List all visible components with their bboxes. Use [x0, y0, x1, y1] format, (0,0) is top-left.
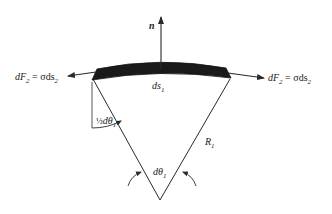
angle-arrow-left	[128, 172, 141, 186]
force-left-label: dF2 = σds2	[15, 71, 59, 85]
left-radius-line	[93, 79, 160, 200]
force-right-label: dF2 = σds2	[268, 72, 312, 86]
membrane-diagram: n dF2 = σds2 dF2 = σds2 ds1 ½dθ1 dθ1 R1	[0, 0, 332, 214]
force-arrow-left	[68, 72, 96, 76]
normal-label: n	[149, 20, 155, 31]
radius-label: R1	[204, 136, 215, 150]
arc-length-label: ds1	[152, 80, 164, 94]
right-radius-line	[160, 79, 230, 200]
force-arrow-right	[228, 73, 264, 78]
angle-arrow-right	[183, 172, 196, 186]
angle-label: dθ1	[153, 166, 166, 180]
